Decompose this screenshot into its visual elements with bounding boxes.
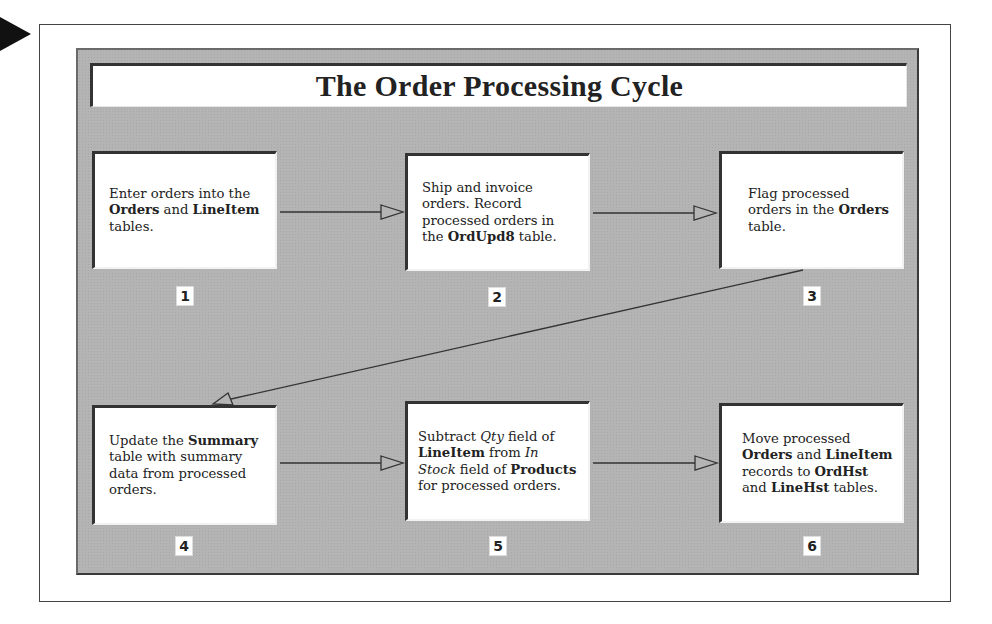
step-text-segment: for processed orders. xyxy=(418,478,561,493)
step-text-segment: field of xyxy=(456,462,511,477)
step-text-segment: and xyxy=(159,202,192,217)
step-text-segment: Orders xyxy=(109,202,159,217)
step-text-segment: field of xyxy=(504,429,554,444)
step-number-1: 1 xyxy=(176,286,194,306)
step-box-3: Flag processed orders in the Orders tabl… xyxy=(719,151,904,269)
step-number-3: 3 xyxy=(803,286,821,306)
step-text-segment: and xyxy=(792,447,825,462)
step-text-segment: LineItem xyxy=(418,445,485,460)
step-text-segment: Orders xyxy=(838,202,888,217)
step-text-segment: LineItem xyxy=(826,447,893,462)
title-bar: The Order Processing Cycle xyxy=(90,63,907,107)
step-text-segment: tables. xyxy=(109,219,154,234)
step-text-segment: and xyxy=(742,480,771,495)
step-box-4: Update the Summary table with summary da… xyxy=(92,405,277,525)
step-box-5: Subtract Qty field of LineItem from In S… xyxy=(405,401,590,521)
step-text-segment: OrdUpd8 xyxy=(448,229,515,244)
step-text-segment: LineItem xyxy=(193,202,260,217)
step-box-6: Move processed Orders and LineItem recor… xyxy=(719,403,904,523)
step-text-segment: Enter orders into the xyxy=(109,186,250,201)
step-text: Ship and invoice orders. Record processe… xyxy=(422,180,580,246)
step-text: Enter orders into the Orders and LineIte… xyxy=(109,186,267,236)
step-text-segment: OrdHst xyxy=(815,464,869,479)
step-text-segment: records to xyxy=(742,464,815,479)
step-text: Update the Summary table with summary da… xyxy=(109,433,267,499)
step-number-5: 5 xyxy=(489,536,507,556)
step-text-segment: table with summary data from processed o… xyxy=(109,449,246,497)
step-text-segment: Orders xyxy=(742,447,792,462)
pointer-triangle-icon xyxy=(0,17,31,51)
step-text-segment: table. xyxy=(748,219,786,234)
diagram-title: The Order Processing Cycle xyxy=(316,69,683,103)
step-text-segment: Summary xyxy=(188,433,258,448)
step-text-segment: LineHst xyxy=(771,480,829,495)
step-number-6: 6 xyxy=(803,536,821,556)
step-text-segment: Products xyxy=(510,462,576,477)
step-text-segment: tables. xyxy=(829,480,878,495)
step-number-4: 4 xyxy=(175,536,193,556)
step-text-segment: table. xyxy=(515,229,557,244)
step-text: Flag processed orders in the Orders tabl… xyxy=(736,186,894,236)
step-text: Move processed Orders and LineItem recor… xyxy=(742,431,894,497)
step-text-segment: Flag processed orders in the xyxy=(748,186,850,218)
step-number-2: 2 xyxy=(488,287,506,307)
step-box-1: Enter orders into the Orders and LineIte… xyxy=(92,151,277,269)
step-text: Subtract Qty field of LineItem from In S… xyxy=(418,429,580,495)
step-text-segment: Qty xyxy=(480,429,504,444)
step-text-segment: from xyxy=(485,445,525,460)
step-box-2: Ship and invoice orders. Record processe… xyxy=(405,153,590,271)
step-text-segment: Move processed xyxy=(742,431,851,446)
step-text-segment: Update the xyxy=(109,433,188,448)
step-text-segment: Subtract xyxy=(418,429,480,444)
